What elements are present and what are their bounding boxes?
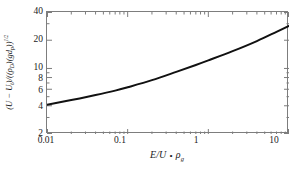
y-tick-label-group: 40 20 10 8 6 4 2: [0, 0, 43, 171]
plot-area: [46, 11, 288, 133]
x-tick-label: 1: [185, 135, 207, 145]
x-tick-label: 10: [261, 135, 287, 145]
x-axis-title: E/U • ρg: [46, 149, 288, 165]
chart-figure: (U − Ut)/((ρD)(gdp))1/2 40 20 10 8 6 4 2…: [0, 0, 296, 171]
y-tick-label: 4: [38, 102, 43, 112]
plot-svg: [47, 12, 289, 134]
y-tick-label: 8: [38, 74, 43, 84]
y-tick-label: 6: [38, 86, 43, 96]
y-tick-label: 20: [34, 35, 44, 45]
x-axis-title-text: E/U • ρg: [150, 149, 184, 160]
x-tick-label: 0.01: [30, 135, 62, 145]
data-curve: [47, 26, 289, 105]
tick-marks: [47, 12, 289, 134]
y-tick-label: 40: [34, 7, 44, 17]
x-tick-label: 0.1: [104, 135, 136, 145]
data-series-layer: [47, 26, 289, 105]
y-tick-label: 10: [34, 63, 44, 73]
